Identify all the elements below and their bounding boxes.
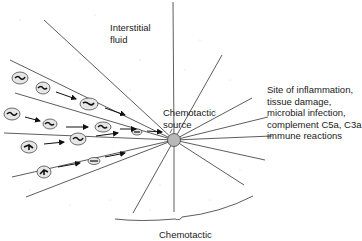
site-line-3: microbial infection,	[267, 107, 362, 119]
interstitial-fluid-label: Interstitial fluid	[110, 22, 151, 45]
interstitial-line-1: Interstitial	[110, 22, 151, 34]
chemotactic-source	[168, 134, 181, 147]
site-of-inflammation-label: Site of inflammation, tissue damage, mic…	[267, 84, 362, 142]
site-line-4: complement C5a, C3a	[267, 119, 362, 131]
chemotactic-source-label: Chemotactic source	[163, 107, 216, 130]
bottom-chemotactic-label: Chemotactic	[159, 229, 212, 241]
interstitial-line-2: fluid	[110, 34, 151, 46]
migrating-cells	[4, 72, 142, 178]
site-line-1: Site of inflammation,	[267, 84, 362, 96]
source-line-1: Chemotactic	[163, 107, 216, 119]
site-line-5: immune reactions	[267, 130, 362, 142]
source-line-2: source	[163, 119, 216, 131]
site-line-2: tissue damage,	[267, 96, 362, 108]
